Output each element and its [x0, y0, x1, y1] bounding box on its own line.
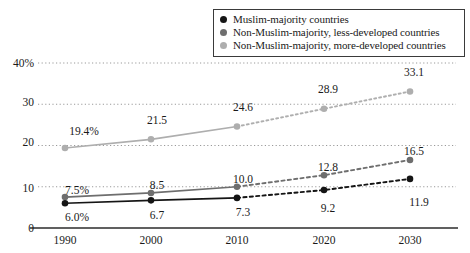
series-more-developed [62, 88, 414, 151]
data-point-marker [407, 157, 414, 164]
x-axis-tick-2030: 2030 [380, 234, 440, 246]
data-label-more-developed-2020: 28.9 [318, 83, 338, 95]
data-point-marker [62, 200, 69, 207]
data-point-marker [407, 176, 414, 183]
data-label-less-developed-2010: 10.0 [233, 173, 253, 185]
x-axis-tick-2020: 2020 [294, 234, 354, 246]
data-point-marker [148, 197, 155, 204]
legend-marker-icon [220, 29, 227, 36]
legend-marker-icon [220, 16, 227, 23]
legend-item-less-developed[interactable]: Non-Muslim-majority, less-developed coun… [220, 26, 458, 39]
data-point-marker [234, 195, 241, 202]
y-axis-tick-40: 40% [0, 57, 34, 69]
data-label-less-developed-1990: 7.5% [65, 184, 89, 196]
data-point-marker [62, 145, 69, 152]
data-point-marker [234, 123, 241, 130]
y-axis-tick-0: 0 [0, 222, 34, 234]
legend-item-muslim-majority[interactable]: Muslim-majority countries [220, 13, 458, 26]
y-axis-tick-10: 10 [0, 182, 34, 194]
data-label-less-developed-2030: 16.5 [404, 145, 424, 157]
data-label-more-developed-1990: 19.4% [69, 125, 99, 137]
legend-item-label: Muslim-majority countries [233, 13, 349, 26]
data-label-less-developed-2020: 12.8 [318, 161, 338, 173]
data-label-muslim-majority-2010: 7.3 [236, 206, 250, 218]
data-label-more-developed-2030: 33.1 [404, 66, 424, 78]
data-point-marker [321, 187, 328, 194]
legend-item-label: Non-Muslim-majority, less-developed coun… [233, 26, 440, 39]
x-axis-tick-2010: 2010 [207, 234, 267, 246]
x-axis-tick-1990: 1990 [35, 234, 95, 246]
chart-legend: Muslim-majority countries Non-Muslim-maj… [213, 9, 465, 57]
data-label-muslim-majority-2000: 6.7 [150, 209, 164, 221]
legend-marker-icon [220, 42, 227, 49]
data-label-more-developed-2000: 21.5 [147, 114, 167, 126]
data-label-muslim-majority-2030: 11.9 [409, 196, 429, 208]
legend-item-label: Non-Muslim-majority, more-developed coun… [233, 39, 446, 52]
x-axis-tick-2000: 2000 [121, 234, 181, 246]
data-point-marker [407, 88, 414, 95]
legend-item-more-developed[interactable]: Non-Muslim-majority, more-developed coun… [220, 39, 458, 52]
data-point-marker [148, 136, 155, 143]
data-label-more-developed-2010: 24.6 [233, 101, 253, 113]
data-label-less-developed-2000: 8.5 [150, 179, 164, 191]
data-label-muslim-majority-2020: 9.2 [321, 202, 335, 214]
line-chart: 40% 30 20 10 0 1990 2000 2010 2020 2030 … [0, 0, 470, 253]
data-label-muslim-majority-1990: 6.0% [65, 211, 89, 223]
y-axis-tick-20: 20 [0, 136, 34, 148]
data-point-marker [321, 105, 328, 112]
y-axis-tick-30: 30 [0, 96, 34, 108]
